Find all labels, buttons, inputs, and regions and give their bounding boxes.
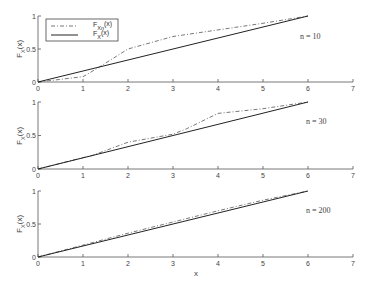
x-tick-label: 6 xyxy=(306,85,310,92)
svg-text:FX(x): FX(x) xyxy=(15,215,26,234)
y-tick-label: 0 xyxy=(32,166,36,173)
y-tick-label: 0.5 xyxy=(26,46,36,53)
x-tick-label: 3 xyxy=(171,85,175,92)
x-tick-label: 6 xyxy=(306,260,310,267)
y-tick-label: 1 xyxy=(32,188,36,195)
legend: FXn(x) FX(x) xyxy=(46,19,118,41)
panel-n10: FX(x) 0123456700.51 n = 10 FXn(x) FX(x) xyxy=(15,13,355,93)
x-tick-label: 3 xyxy=(171,172,175,179)
y-tick-label: 1 xyxy=(32,13,36,20)
svg-text:FX(x): FX(x) xyxy=(15,127,26,146)
x-tick-label: 2 xyxy=(126,172,130,179)
series-fx-line xyxy=(38,191,308,257)
x-tick-label: 5 xyxy=(261,172,265,179)
panel-label: n = 30 xyxy=(306,117,327,126)
y-tick-label: 0.5 xyxy=(26,132,36,139)
x-tick-label: 7 xyxy=(351,260,355,267)
x-tick-label: 2 xyxy=(126,85,130,92)
figure: FX(x) 0123456700.51 n = 10 FXn(x) FX(x) … xyxy=(0,0,370,287)
x-tick-label: 3 xyxy=(171,260,175,267)
y-tick-label: 0 xyxy=(32,79,36,86)
x-tick-label: 4 xyxy=(216,172,220,179)
y-axis-label: FX(x) xyxy=(15,215,26,234)
y-tick-label: 0 xyxy=(32,254,36,261)
x-tick-label: 2 xyxy=(126,260,130,267)
y-tick-label: 1 xyxy=(32,99,36,106)
x-axis-label: x xyxy=(194,269,198,278)
x-tick-label: 1 xyxy=(81,260,85,267)
x-tick-label: 1 xyxy=(81,172,85,179)
y-tick-label: 0.5 xyxy=(26,221,36,228)
x-tick-label: 0 xyxy=(36,260,40,267)
plot-area: 0123456700.51 xyxy=(26,188,355,268)
x-tick-label: 0 xyxy=(36,85,40,92)
x-tick-label: 6 xyxy=(306,172,310,179)
x-tick-label: 7 xyxy=(351,85,355,92)
x-tick-label: 5 xyxy=(261,85,265,92)
panel-label: n = 200 xyxy=(306,206,331,215)
panel-n200: FX(x) 0123456700.51 n = 200 x xyxy=(15,188,355,279)
panel-n30: FX(x) 0123456700.51 n = 30 xyxy=(15,99,355,180)
y-axis-label: FX(x) xyxy=(15,40,26,59)
x-tick-label: 1 xyxy=(81,85,85,92)
svg-text:FX(x): FX(x) xyxy=(15,40,26,59)
panel-label: n = 10 xyxy=(300,32,321,41)
x-tick-label: 5 xyxy=(261,260,265,267)
y-axis-label: FX(x) xyxy=(15,127,26,146)
x-tick-label: 4 xyxy=(216,260,220,267)
x-tick-label: 7 xyxy=(351,172,355,179)
series-fx-line xyxy=(38,102,308,169)
x-tick-label: 4 xyxy=(216,85,220,92)
x-tick-label: 0 xyxy=(36,172,40,179)
plot-area: 0123456700.51 xyxy=(26,99,355,180)
